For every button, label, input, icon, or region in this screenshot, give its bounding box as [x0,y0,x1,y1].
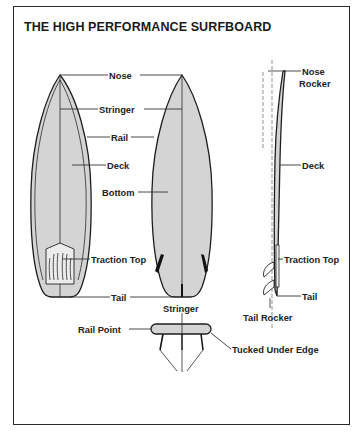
center-fin [181,284,183,297]
surfboard-diagram: Nose Stringer Rail Deck Bottom Traction … [0,0,364,437]
label-rail-point: Rail Point [78,325,121,335]
label-nose-rocker-line1: Nose [302,67,325,77]
side-view-board [263,60,285,330]
label-tail-rocker: Tail Rocker [243,313,293,323]
label-nose-rocker-line2: Rocker [299,79,331,89]
bottom-view-board [152,75,212,297]
label-side-deck: Deck [302,161,325,171]
traction-pad-icon [46,243,74,284]
label-tail: Tail [111,293,126,303]
label-side-traction-top: Traction Top [284,255,339,265]
label-stringer: Stringer [99,105,135,115]
label-deck: Deck [107,161,130,171]
deck-view-board [31,75,91,297]
label-traction-top: Traction Top [91,255,146,265]
label-rail: Rail [111,133,128,143]
label-tucked-under-edge: Tucked Under Edge [232,345,319,355]
label-side-tail: Tail [302,292,317,302]
cross-section [151,313,211,372]
label-cross-stringer: Stringer [163,304,199,314]
label-bottom: Bottom [102,188,135,198]
label-nose: Nose [109,71,132,81]
